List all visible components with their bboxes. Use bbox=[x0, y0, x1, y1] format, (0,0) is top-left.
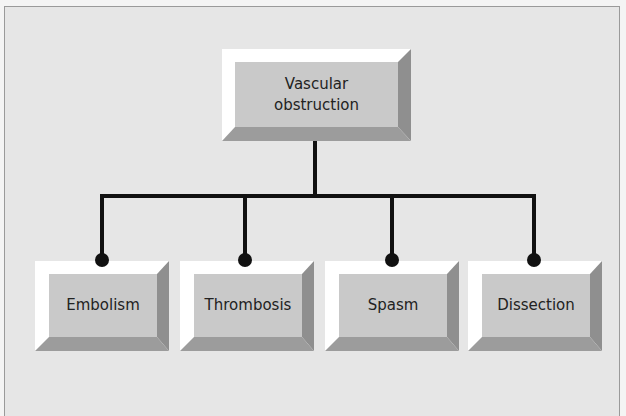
connector-dot-icon bbox=[95, 253, 109, 267]
connector-dot-icon bbox=[527, 253, 541, 267]
connector-dot-icon bbox=[238, 253, 252, 267]
connector-dot-icon bbox=[385, 253, 399, 267]
